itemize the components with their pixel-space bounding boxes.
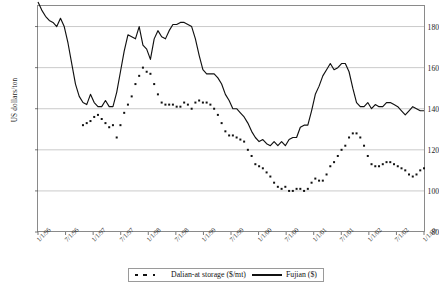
y-tick-label: 100 [409,186,439,195]
solid-line-icon [251,271,283,278]
legend-item-dalian: Dalian-at storage ($/mt) [134,271,246,279]
y-tick-label: 160 [409,63,439,72]
series-fujian [38,2,424,146]
legend-label-dalian: Dalian-at storage ($/mt) [171,271,246,279]
y-tick-label: 140 [409,104,439,113]
legend-label-fujian: Fujian ($) [286,271,317,279]
y-tick-label: 180 [409,22,439,31]
series-dalian [82,67,425,192]
y-tick-label: 120 [409,145,439,154]
dotted-line-icon [134,271,168,278]
gridlines [35,27,424,232]
legend-item-fujian: Fujian ($) [251,271,317,279]
chart-legend: Dalian-at storage ($/mt) Fujian ($) [128,268,324,282]
chart-canvas [0,0,439,295]
chart-root: US dollars/ton 80100120140160180 1/1/967… [0,0,439,295]
